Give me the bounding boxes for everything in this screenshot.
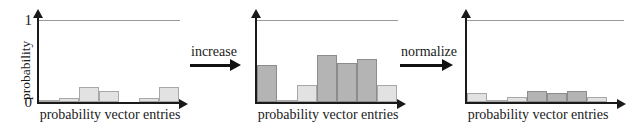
x-axis-arrowhead <box>617 99 626 109</box>
x-axis-label: probability vector entries <box>248 107 408 123</box>
bar <box>257 65 277 102</box>
transformation-figure: probability 1 0 probability vector entri… <box>0 0 628 130</box>
bar <box>467 93 487 102</box>
y-axis-arrowhead <box>251 9 261 18</box>
bar <box>277 100 297 102</box>
bar <box>547 93 567 102</box>
arrow-increase: increase <box>188 0 244 130</box>
chart-panel-increased: probability vector entries <box>240 0 400 130</box>
bar-plot-area <box>467 20 607 102</box>
arrow-normalize-shaft <box>400 64 443 67</box>
bar <box>159 87 179 102</box>
arrow-increase-shaft <box>190 64 231 67</box>
y-axis-arrowhead <box>33 9 43 18</box>
x-axis-label: probability vector entries <box>458 107 618 123</box>
x-axis-line <box>37 102 180 104</box>
bar <box>337 63 357 102</box>
chart-panel-initial: probability 1 0 probability vector entri… <box>0 0 190 130</box>
chart-panel-normalized: probability vector entries <box>450 0 628 130</box>
bar <box>79 87 99 102</box>
bar <box>487 100 507 102</box>
x-axis-label: probability vector entries <box>30 107 190 123</box>
y-tick-label-1: 1 <box>12 13 32 28</box>
x-axis-line <box>255 102 398 104</box>
arrow-normalize: normalize <box>400 0 456 130</box>
bar <box>567 91 587 102</box>
bar <box>357 59 377 102</box>
arrow-increase-label: increase <box>191 44 237 60</box>
bar <box>377 85 397 102</box>
bar <box>139 98 159 102</box>
bar <box>297 85 317 102</box>
y-tick-label-0: 0 <box>12 95 32 110</box>
y-axis-arrowhead <box>461 9 471 18</box>
bar <box>507 97 527 102</box>
bar <box>587 97 607 102</box>
bar <box>99 91 119 102</box>
bar <box>317 55 337 102</box>
bar <box>527 91 547 102</box>
bar <box>39 100 59 102</box>
bar-plot-area <box>39 20 179 102</box>
arrow-normalize-label: normalize <box>401 44 457 60</box>
bar <box>59 98 79 102</box>
x-axis-line <box>465 102 618 104</box>
bar-plot-area <box>257 20 397 102</box>
y-axis-label: probability <box>18 41 34 100</box>
